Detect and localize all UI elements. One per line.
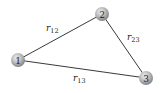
- edge-2-3: [102, 14, 146, 78]
- edge-1-3: [18, 60, 146, 78]
- edge-1-2: [18, 14, 102, 60]
- node-1-label: 1: [15, 56, 21, 66]
- svg-text:r12: r12: [46, 23, 59, 35]
- node-3: 3: [139, 71, 153, 85]
- svg-text:r23: r23: [127, 32, 140, 44]
- node-1: 1: [11, 53, 25, 67]
- triangle-graph-diagram: r12 r23 r13 1 2 3: [0, 0, 163, 93]
- node-2-label: 2: [99, 10, 105, 20]
- node-2: 2: [95, 7, 109, 21]
- edge-label-r12: r12: [46, 23, 59, 35]
- edge-label-r13: r13: [73, 73, 86, 85]
- edge-label-r23: r23: [127, 32, 140, 44]
- node-3-label: 3: [143, 74, 149, 84]
- svg-text:r13: r13: [73, 73, 86, 85]
